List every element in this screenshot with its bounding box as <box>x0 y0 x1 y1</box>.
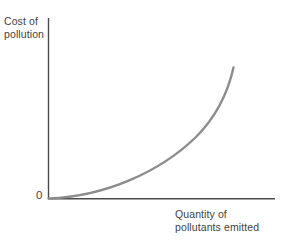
y-axis-label: Cost of pollution <box>4 15 44 40</box>
axes-group <box>48 18 275 199</box>
cost-curve <box>49 68 234 199</box>
chart-figure: Cost of pollution Quantity of pollutants… <box>0 0 291 242</box>
x-axis-label: Quantity of pollutants emitted <box>175 208 259 233</box>
origin-label: 0 <box>36 189 42 201</box>
data-curve-group <box>49 68 234 199</box>
